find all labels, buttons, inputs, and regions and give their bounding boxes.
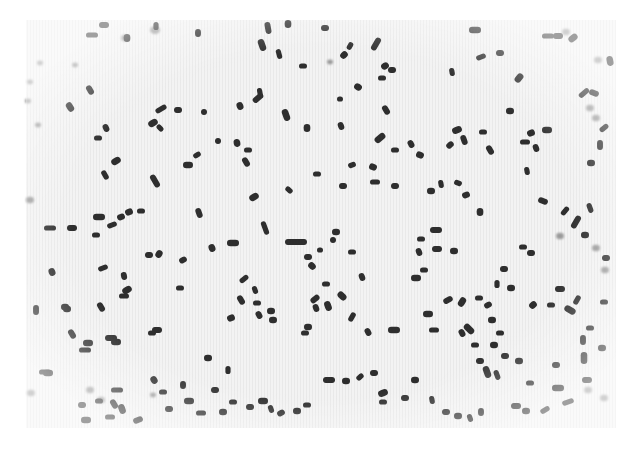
field-vignette [26,20,616,428]
bacteria-micrograph [0,0,631,449]
